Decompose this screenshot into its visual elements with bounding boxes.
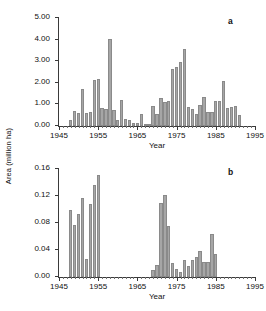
x-tick-minor: [173, 277, 174, 279]
x-tick-label: 1945: [50, 282, 68, 291]
x-tick-minor: [110, 126, 111, 128]
x-tick-minor: [71, 126, 72, 128]
bar: [179, 62, 182, 126]
x-tick-major: [255, 126, 256, 130]
x-tick-minor: [83, 126, 84, 128]
x-tick-minor: [86, 126, 87, 128]
x-tick-minor: [118, 277, 119, 279]
x-tick-minor: [224, 126, 225, 128]
x-tick-minor: [126, 126, 127, 128]
y-tick-label: 3.00: [34, 55, 50, 64]
x-tick-minor: [122, 277, 123, 279]
bar: [183, 49, 186, 126]
y-tick-label: 4.00: [34, 34, 50, 43]
x-tick-minor: [157, 126, 158, 128]
x-tick-minor: [86, 277, 87, 279]
bar: [89, 204, 92, 277]
y-tick-label: 0.00: [34, 271, 50, 280]
x-tick-minor: [243, 277, 244, 279]
bar: [226, 108, 229, 126]
bar: [155, 265, 158, 277]
x-tick-minor: [145, 277, 146, 279]
bar: [191, 260, 194, 277]
bar: [112, 110, 115, 126]
x-tick-minor: [251, 277, 252, 279]
x-tick-minor: [161, 277, 162, 279]
x-tick-minor: [133, 126, 134, 128]
bar: [104, 109, 107, 126]
x-tick-minor: [106, 126, 107, 128]
x-tick-minor: [188, 277, 189, 279]
x-tick-major: [59, 277, 60, 281]
bar: [85, 113, 88, 126]
x-tick-minor: [141, 277, 142, 279]
bar: [159, 98, 162, 126]
bar: [163, 102, 166, 126]
x-tick-minor: [243, 126, 244, 128]
y-tick-label: 2.00: [34, 77, 50, 86]
x-tick-minor: [130, 277, 131, 279]
bar: [214, 254, 217, 277]
y-tick: 5.00: [55, 17, 59, 18]
x-tick-minor: [192, 277, 193, 279]
bar: [175, 67, 178, 126]
x-tick-minor: [153, 126, 154, 128]
y-tick: 3.00: [55, 60, 59, 61]
x-tick-minor: [114, 126, 115, 128]
x-tick-minor: [133, 277, 134, 279]
bar: [85, 259, 88, 277]
y-tick: 0.04: [55, 249, 59, 250]
y-tick: 4.00: [55, 39, 59, 40]
x-tick-minor: [165, 277, 166, 279]
x-tick-minor: [169, 277, 170, 279]
x-tick-label: 1965: [128, 131, 146, 140]
x-tick-minor: [208, 126, 209, 128]
x-tick-minor: [231, 126, 232, 128]
x-tick-minor: [94, 126, 95, 128]
x-tick-minor: [126, 277, 127, 279]
x-tick-minor: [122, 126, 123, 128]
x-tick-minor: [141, 126, 142, 128]
x-tick-minor: [235, 277, 236, 279]
y-tick-label: 0.12: [34, 190, 50, 199]
y-tick-label: 0.00: [34, 120, 50, 129]
bar: [175, 269, 178, 277]
bar: [198, 251, 201, 277]
x-tick-major: [137, 277, 138, 281]
x-tick-minor: [165, 126, 166, 128]
y-tick: 0.16: [55, 168, 59, 169]
bar: [234, 106, 237, 126]
y-tick: 2.00: [55, 82, 59, 83]
panel-b: 0.000.040.080.120.16 1945195519651975198…: [0, 155, 266, 311]
x-tick-minor: [200, 277, 201, 279]
x-tick-minor: [192, 126, 193, 128]
bar: [100, 108, 103, 126]
x-tick-minor: [239, 126, 240, 128]
x-tick-minor: [79, 126, 80, 128]
x-tick-label: 1985: [207, 131, 225, 140]
bar: [222, 81, 225, 126]
panel-letter-a: a: [228, 16, 233, 26]
bar: [155, 114, 158, 126]
x-tick-minor: [228, 126, 229, 128]
figure-root: Area (million ha) 0.001.002.003.004.005.…: [0, 0, 266, 311]
x-tick-minor: [75, 277, 76, 279]
x-tick-major: [216, 277, 217, 281]
x-tick-minor: [157, 277, 158, 279]
bar: [89, 112, 92, 126]
x-tick-minor: [251, 126, 252, 128]
panel-a: 0.001.002.003.004.005.00 194519551965197…: [0, 0, 266, 155]
bar: [69, 210, 72, 277]
y-tick-label: 5.00: [34, 12, 50, 21]
bar: [210, 234, 213, 277]
bar: [183, 260, 186, 277]
panel-letter-b: b: [228, 167, 233, 177]
x-tick-minor: [71, 277, 72, 279]
x-tick-minor: [90, 126, 91, 128]
bar: [108, 39, 111, 126]
bar: [238, 115, 241, 126]
x-tick-minor: [212, 126, 213, 128]
bar: [214, 101, 217, 126]
y-tick-label: 0.08: [34, 217, 50, 226]
bar: [73, 225, 76, 277]
